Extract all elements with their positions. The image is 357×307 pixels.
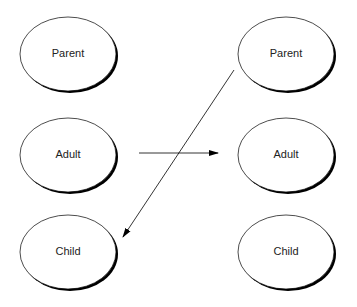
node-label: Child: [273, 245, 298, 257]
diagram-canvas: Parent Adult Child Parent Adult Child: [0, 0, 357, 307]
node-label: Adult: [273, 148, 298, 160]
node-left-child[interactable]: Child: [20, 215, 118, 291]
node-label: Adult: [55, 148, 80, 160]
edge-parent-to-child-arrow[interactable]: [123, 70, 234, 237]
node-right-child[interactable]: Child: [238, 215, 336, 291]
node-left-parent[interactable]: Parent: [20, 17, 118, 93]
node-label: Parent: [270, 47, 302, 59]
node-left-adult[interactable]: Adult: [20, 118, 118, 194]
node-right-adult[interactable]: Adult: [238, 118, 336, 194]
node-right-parent[interactable]: Parent: [238, 17, 336, 93]
node-label: Child: [55, 245, 80, 257]
node-label: Parent: [52, 47, 84, 59]
